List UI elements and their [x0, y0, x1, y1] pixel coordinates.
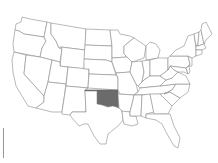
- us-state-map: [0, 0, 218, 163]
- state-michigan[interactable]: [146, 42, 160, 60]
- state-north-dakota[interactable]: [85, 29, 112, 46]
- state-wyoming[interactable]: [60, 47, 85, 69]
- state-connecticut[interactable]: [196, 50, 202, 56]
- state-new-york[interactable]: [170, 34, 196, 58]
- state-kansas[interactable]: [88, 74, 118, 90]
- state-new-mexico[interactable]: [62, 86, 88, 115]
- state-colorado[interactable]: [66, 67, 89, 88]
- state-florida[interactable]: [146, 114, 180, 148]
